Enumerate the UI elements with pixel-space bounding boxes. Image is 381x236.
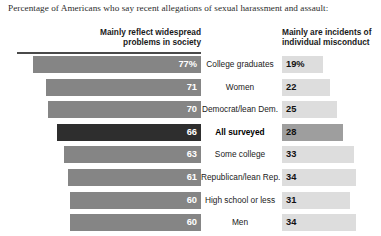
category-label: Women — [201, 79, 279, 96]
bar-track-right: 34 — [282, 169, 381, 186]
bar-track-left: 71 — [0, 79, 201, 96]
chart-row: 66All surveyed28 — [0, 123, 381, 146]
category-label: All surveyed — [201, 124, 279, 141]
category-label: College graduates — [201, 56, 279, 73]
bar-value-right: 22 — [286, 79, 296, 96]
bar-value-right: 25 — [286, 101, 296, 118]
bar-track-right: 25 — [282, 101, 381, 118]
chart-row: 60High school or less31 — [0, 191, 381, 214]
chart-row: 71Women22 — [0, 78, 381, 101]
bar-left: 60 — [70, 192, 201, 209]
column-header-left: Mainly reflect widespread problems in so… — [86, 27, 201, 47]
bar-value-left: 71 — [187, 79, 197, 96]
bar-left: 60 — [70, 214, 201, 231]
chart-row: 60Men34 — [0, 213, 381, 236]
bar-value-right: 31 — [286, 192, 296, 209]
bar-left: 77% — [33, 56, 201, 73]
bar-value-right: 34 — [286, 169, 296, 186]
bar-value-left: 60 — [187, 214, 197, 231]
category-label: Republican/lean Rep. — [201, 169, 279, 186]
bar-left: 70 — [48, 101, 201, 118]
bar-value-right: 19% — [286, 56, 305, 73]
chart-row: 61Republican/lean Rep.34 — [0, 168, 381, 191]
chart-row: 70Democrat/lean Dem.25 — [0, 100, 381, 123]
bar-value-right: 34 — [286, 214, 296, 231]
bar-value-left: 61 — [187, 169, 197, 186]
bar-value-left: 66 — [187, 124, 197, 141]
bar-value-left: 70 — [187, 101, 197, 118]
bar-track-right: 22 — [282, 79, 381, 96]
bar-track-left: 60 — [0, 214, 201, 231]
bar-left: 63 — [64, 146, 201, 163]
bar-track-right: 34 — [282, 214, 381, 231]
bar-left: 66 — [57, 124, 201, 141]
category-label: Some college — [201, 146, 279, 163]
bar-track-left: 60 — [0, 192, 201, 209]
bar-track-left: 61 — [0, 169, 201, 186]
bar-value-left: 77% — [178, 56, 197, 73]
bar-track-right: 28 — [282, 124, 381, 141]
chart-container: Percentage of Americans who say recent a… — [0, 0, 381, 236]
chart-title: Percentage of Americans who say recent a… — [8, 3, 378, 14]
bar-track-right: 33 — [282, 146, 381, 163]
bar-track-left: 66 — [0, 124, 201, 141]
header-divider-rule — [17, 52, 201, 54]
column-header-right: Mainly are incidents of individual misco… — [282, 27, 378, 47]
category-label: High school or less — [201, 192, 279, 209]
chart-rows: 77%College graduates19%71Women2270Democr… — [0, 55, 381, 236]
category-label: Men — [201, 214, 279, 231]
bar-track-right: 19% — [282, 56, 381, 73]
bar-left: 71 — [46, 79, 201, 96]
bar-right: 34 — [282, 214, 356, 231]
bar-left: 61 — [68, 169, 201, 186]
bar-value-left: 63 — [187, 146, 197, 163]
bar-track-left: 70 — [0, 101, 201, 118]
bar-right: 25 — [282, 101, 337, 118]
bar-value-right: 28 — [286, 124, 296, 141]
bar-right: 34 — [282, 169, 356, 186]
bar-track-right: 31 — [282, 192, 381, 209]
chart-row: 63Some college33 — [0, 145, 381, 168]
bar-right: 22 — [282, 79, 330, 96]
bar-right: 31 — [282, 192, 350, 209]
bar-right: 33 — [282, 146, 354, 163]
bar-track-left: 77% — [0, 56, 201, 73]
chart-row: 77%College graduates19% — [0, 55, 381, 78]
bar-track-left: 63 — [0, 146, 201, 163]
category-label: Democrat/lean Dem. — [201, 101, 279, 118]
bar-right: 28 — [282, 124, 343, 141]
bar-value-right: 33 — [286, 146, 296, 163]
bar-right: 19% — [282, 56, 323, 73]
bar-value-left: 60 — [187, 192, 197, 209]
